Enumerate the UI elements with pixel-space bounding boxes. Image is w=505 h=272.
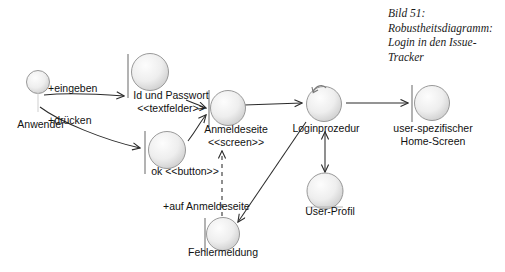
node-label-loginprozedur: Loginprozedur [283,122,369,135]
actor-icon [27,71,50,94]
boundary-circle [415,86,450,121]
node-anwender[interactable] [27,71,50,113]
control-circle [307,87,342,122]
boundary-circle [149,132,186,169]
node-home-screen[interactable] [412,85,450,122]
figure-caption: Bild 51: Robustheitsdiagramm: Login in d… [388,6,503,64]
boundary-circle [132,54,169,91]
entity-circle [307,173,343,209]
edge-label-auf-anmeldeseite: +auf Anmeldeseite [163,200,250,212]
node-label-home-screen: user-spezifischer Home-Screen [375,122,491,147]
node-label-user-profil: User-Profil [295,205,365,218]
node-label-id-und-passwort: Id und Passwort <<textfelder>> [112,89,230,114]
node-label-ok-button: ok <<button>> [137,165,233,178]
node-loginprozedur[interactable] [307,86,342,122]
node-label-fehlermeldung: Fehlermeldung [175,246,271,259]
edge-anmeldeseite-login [244,103,302,105]
edge-label-eingeben: +eingeben [48,82,97,94]
figure-canvas: Bild 51: Robustheitsdiagramm: Login in d… [0,0,505,272]
node-label-anmeldeseite: Anmeldeseite <<screen>> [190,123,282,148]
edge-label-druecken: +drücken [48,114,92,126]
node-user-profil[interactable] [307,173,343,209]
